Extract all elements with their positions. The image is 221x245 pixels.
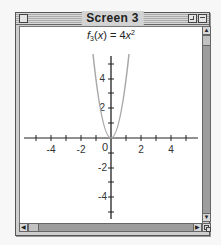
close-box-icon[interactable] — [19, 14, 28, 23]
resize-grip-icon[interactable] — [202, 223, 211, 232]
x-tick-label: 2 — [138, 144, 144, 155]
vertical-scrollbar[interactable]: ▲ ▼ — [202, 26, 211, 222]
y-tick-label: -2 — [98, 162, 107, 173]
graph-window: Screen 3 f3(x) = 4x2 — [15, 12, 210, 236]
horizontal-scrollbar[interactable]: ◀ ▶ — [19, 223, 202, 232]
title-bar[interactable]: Screen 3 — [16, 13, 209, 25]
scroll-down-arrow-icon[interactable]: ▼ — [202, 213, 211, 222]
x-tick-label: -2 — [77, 144, 86, 155]
scroll-up-arrow-icon[interactable]: ▲ — [202, 26, 211, 35]
y-tick-label: -4 — [98, 191, 107, 202]
scroll-left-arrow-icon[interactable]: ◀ — [19, 223, 28, 232]
x-tick-label: -4 — [47, 144, 56, 155]
vertical-scroll-thumb[interactable] — [202, 35, 211, 46]
zoom-box-icon[interactable] — [198, 14, 207, 23]
origin-label: 0 — [102, 141, 108, 153]
x-tick-label: 4 — [168, 144, 174, 155]
y-tick-label: 4 — [99, 73, 105, 84]
horizontal-scroll-thumb[interactable] — [28, 223, 39, 232]
scroll-right-arrow-icon[interactable]: ▶ — [193, 223, 202, 232]
graph-area: f3(x) = 4x2 — [19, 26, 203, 224]
collapse-box-icon[interactable] — [188, 14, 197, 23]
window-title: Screen 3 — [81, 11, 143, 25]
graph-plot: -4 -2 0 2 4 4 2 -2 -4 — [20, 27, 202, 223]
